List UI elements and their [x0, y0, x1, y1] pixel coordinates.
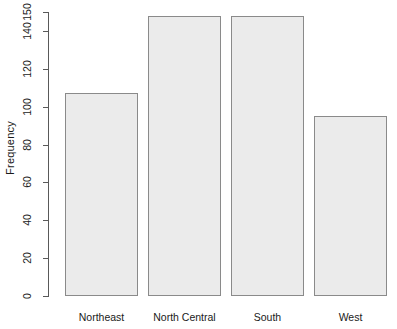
y-axis-tick-label: 0: [12, 289, 42, 303]
y-axis-tick: [43, 182, 49, 183]
y-axis-tick: [43, 145, 49, 146]
bar: [314, 116, 387, 296]
y-axis-tick: [43, 69, 49, 70]
y-axis-tick-label-text: 40: [21, 214, 33, 226]
y-axis-tick-label-text: 60: [21, 177, 33, 189]
y-axis-tick-label-text: 140: [21, 22, 33, 40]
y-axis-line: [48, 12, 49, 296]
y-axis-tick: [43, 258, 49, 259]
y-axis-title-text: Frequency: [4, 121, 16, 175]
y-axis-tick-label-text: 0: [21, 293, 33, 299]
x-axis-category-label: West: [314, 310, 387, 324]
y-axis-tick-label-text: 100: [21, 98, 33, 116]
y-axis-tick: [43, 107, 49, 108]
y-axis-tick-label: 60: [12, 175, 42, 189]
y-axis-title: Frequency: [0, 0, 20, 296]
y-axis-tick: [43, 296, 49, 297]
y-axis-tick-label-text: 20: [21, 252, 33, 264]
bar-chart: Frequency 020406080100120140150 Northeas…: [0, 0, 397, 329]
y-axis-tick-label: 40: [12, 213, 42, 227]
y-axis-tick-label: 150: [12, 5, 42, 19]
y-axis-tick-label: 80: [12, 138, 42, 152]
bar: [148, 16, 221, 296]
y-axis-tick: [43, 220, 49, 221]
bar: [65, 93, 138, 296]
x-axis-category-label: South: [231, 310, 304, 324]
y-axis-tick-label: 100: [12, 100, 42, 114]
y-axis-tick-label: 140: [12, 24, 42, 38]
x-axis-category-label: North Central: [148, 310, 221, 324]
y-axis-tick-label-text: 80: [21, 139, 33, 151]
y-axis-tick: [43, 31, 49, 32]
y-axis-tick-label-text: 120: [21, 60, 33, 78]
x-axis-category-label: Northeast: [65, 310, 138, 324]
y-axis-tick: [43, 12, 49, 13]
y-axis-tick-label: 20: [12, 251, 42, 265]
bar: [231, 16, 304, 296]
y-axis-tick-label: 120: [12, 62, 42, 76]
y-axis-tick-label-text: 150: [21, 3, 33, 21]
